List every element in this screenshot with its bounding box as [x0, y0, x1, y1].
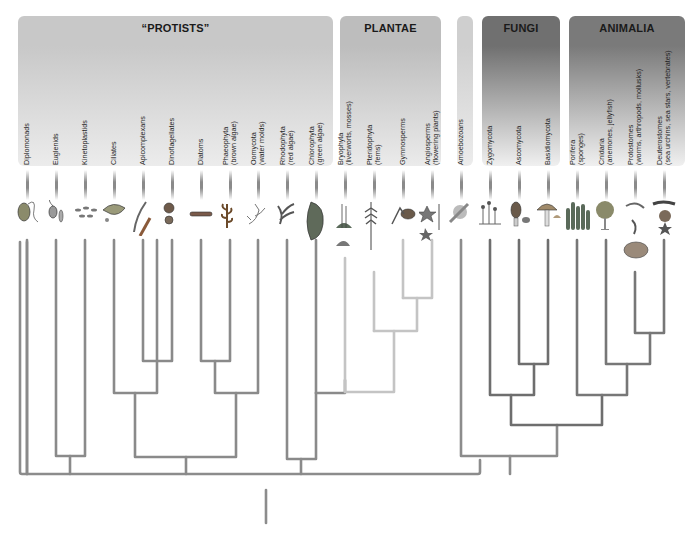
amoebozoa-branch	[461, 240, 557, 474]
taxon-label: Gymnosperms	[399, 118, 407, 165]
taxon-stub	[663, 170, 666, 200]
anemone-icon	[593, 200, 621, 234]
taxon-name: Dinoflagellates	[168, 118, 176, 165]
taxon-label: Diatoms	[197, 139, 205, 165]
green-algae-icon	[303, 200, 331, 246]
dinoflagellate-icon	[159, 200, 187, 234]
taxon-label: Oomycota(water molds)	[250, 121, 266, 165]
taxon-name: Ascomycota	[515, 126, 523, 165]
fungi-branches	[490, 240, 602, 425]
mollusk-icon	[622, 200, 650, 264]
taxon-name: Apicomplexans	[139, 116, 147, 165]
taxon-label: Dinoflagellates	[168, 118, 176, 165]
euglenid-icon	[43, 200, 71, 234]
taxon-name: Diatoms	[197, 139, 205, 165]
taxon-name: Kinetoplastids	[81, 120, 89, 165]
taxon-common-name: (sponges)	[577, 133, 585, 165]
diplomonad-icon	[14, 200, 42, 234]
taxon-stub	[113, 170, 116, 200]
protist-branches	[27, 240, 345, 474]
taxon-name: Amoebozoans	[457, 119, 465, 165]
taxon-stub	[229, 170, 232, 200]
taxon-stub	[55, 170, 58, 200]
taxon-common-name: (ferns)	[374, 125, 382, 165]
taxon-stub	[344, 170, 347, 200]
taxon-stub	[142, 170, 145, 200]
taxon-name: Euglenids	[52, 133, 60, 165]
taxon-stub	[315, 170, 318, 200]
taxon-label: Chlorophyta(green algae)	[308, 122, 324, 165]
taxon-label: Ciliates	[110, 141, 118, 165]
taxon-stub	[200, 170, 203, 200]
taxon-stub	[634, 170, 637, 200]
taxon-name: Ciliates	[110, 141, 118, 165]
mushroom-icon	[535, 200, 563, 234]
taxon-label: Apicomplexans	[139, 116, 147, 165]
red-algae-icon	[274, 200, 302, 234]
taxon-label: Zygomycota	[486, 126, 494, 165]
taxon-common-name: (green algae)	[316, 122, 324, 165]
flower-icon	[419, 200, 447, 246]
bread-mold-icon	[477, 200, 505, 234]
taxon-stub	[460, 170, 463, 200]
taxon-stub	[431, 170, 434, 200]
taxon-common-name: (flowering plants)	[432, 110, 440, 165]
taxon-common-name: (sea urchins, sea stars, vertebrates)	[664, 50, 672, 165]
taxon-label: Deuterostomes(sea urchins, sea stars, ve…	[656, 50, 672, 165]
taxon-common-name: (red algae)	[287, 126, 295, 165]
taxon-label: Rhodophyta(red algae)	[279, 126, 295, 165]
brown-algae-icon	[217, 200, 245, 234]
taxon-name: Zygomycota	[486, 126, 494, 165]
taxon-label: Porifera(sponges)	[569, 133, 585, 165]
water-mold-icon	[245, 200, 273, 234]
sponge-icon	[564, 200, 592, 234]
ciliate-icon	[101, 200, 129, 234]
taxon-stub	[26, 170, 29, 200]
taxon-stub	[489, 170, 492, 200]
taxon-label: Pteridophyta(ferns)	[366, 125, 382, 165]
taxon-stub	[547, 170, 550, 200]
taxon-stub	[257, 170, 260, 200]
diatom-icon	[188, 200, 216, 234]
taxon-name: Gymnosperms	[399, 118, 407, 165]
taxon-stub	[518, 170, 521, 200]
taxon-label: Amoebozoans	[457, 119, 465, 165]
taxon-stub	[171, 170, 174, 200]
taxon-label: Angiosperms(flowering plants)	[424, 110, 440, 165]
sea-star-icon	[651, 200, 679, 242]
taxon-stub	[286, 170, 289, 200]
taxon-stub	[402, 170, 405, 200]
taxon-label: Kinetoplastids	[81, 120, 89, 165]
taxon-label: Ascomycota	[515, 126, 523, 165]
animal-branches	[577, 240, 664, 395]
phylogenetic-tree	[0, 0, 697, 534]
taxon-label: Protostomes(worms, arthropods, mollusks)	[627, 69, 643, 165]
taxon-stub	[576, 170, 579, 200]
taxon-name: Basidiomycota	[544, 118, 552, 165]
taxon-label: Euglenids	[52, 133, 60, 165]
plant-branches	[345, 240, 432, 392]
taxon-label: Basidiomycota	[544, 118, 552, 165]
fern-icon	[361, 200, 389, 256]
apicomplexan-icon	[130, 200, 158, 240]
kinetoplastid-icon	[72, 200, 100, 234]
taxon-stub	[373, 170, 376, 200]
morel-icon	[506, 200, 534, 234]
amoeba-icon	[448, 200, 476, 234]
taxon-stub	[605, 170, 608, 200]
taxon-common-name: (worms, arthropods, mollusks)	[635, 69, 643, 165]
taxon-label: Cnidaria(anemones, jellyfish)	[598, 99, 614, 165]
moss-icon	[332, 200, 360, 254]
taxon-common-name: (liverworts, mosses)	[345, 101, 353, 165]
taxon-label: Diplomonads	[23, 123, 31, 165]
taxon-common-name: (brown algae)	[230, 121, 238, 165]
taxon-stub	[84, 170, 87, 200]
pine-cone-icon	[390, 200, 418, 234]
root-branch	[20, 242, 480, 523]
taxon-common-name: (anemones, jellyfish)	[606, 99, 614, 165]
taxon-common-name: (water molds)	[258, 121, 266, 165]
taxon-label: Phaeophyta(brown algae)	[222, 121, 238, 165]
taxon-name: Diplomonads	[23, 123, 31, 165]
taxon-label: Bryophyta(liverworts, mosses)	[337, 101, 353, 165]
